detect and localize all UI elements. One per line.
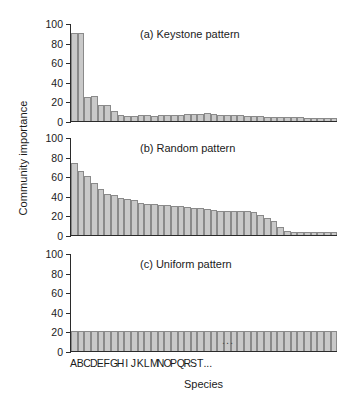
bar — [324, 331, 331, 351]
bar — [138, 203, 145, 235]
bar — [84, 97, 91, 122]
x-axis-title: Species — [70, 378, 337, 390]
bar — [211, 210, 218, 235]
bar — [171, 206, 178, 235]
bar — [84, 331, 91, 351]
bar-series-b — [71, 138, 337, 235]
bar — [104, 194, 111, 235]
y-tick-label: 80 — [51, 38, 63, 50]
x-tick-label: O — [163, 357, 170, 369]
bar — [111, 331, 118, 351]
y-tick-label: 0 — [57, 346, 63, 358]
x-tick-label: G — [110, 357, 117, 369]
bar — [178, 331, 185, 351]
bar — [257, 331, 264, 351]
bar — [98, 189, 105, 235]
y-tick-label: 20 — [51, 210, 63, 222]
bar — [331, 232, 338, 235]
bar — [231, 211, 238, 236]
bar — [264, 218, 271, 235]
bar — [304, 232, 311, 235]
bar — [284, 117, 291, 121]
bar — [284, 231, 291, 235]
y-tick-label: 100 — [45, 18, 63, 30]
y-tick-label: 0 — [57, 116, 63, 128]
bar — [78, 331, 85, 351]
plot-area-a: 100806040200 — [70, 24, 337, 122]
bar — [231, 115, 238, 121]
bar — [331, 331, 338, 351]
plot-area-c: 100806040200 — [70, 254, 337, 352]
bar-series-a — [71, 24, 337, 121]
bar — [237, 331, 244, 351]
bar — [144, 115, 151, 121]
bar — [118, 331, 125, 351]
bar — [237, 211, 244, 235]
bar — [98, 331, 105, 351]
bar — [118, 115, 125, 121]
bar-continuation-ellipsis: ... — [222, 335, 234, 346]
y-tick-label: 40 — [51, 307, 63, 319]
x-tick-label: C — [83, 357, 90, 369]
bar — [284, 331, 291, 351]
bar — [311, 118, 318, 121]
y-tick-0: 0 — [66, 352, 71, 353]
x-tick-label: A — [70, 357, 77, 369]
bar — [204, 209, 211, 235]
bar — [204, 113, 211, 121]
y-tick-0: 0 — [66, 236, 71, 237]
bar — [291, 117, 298, 121]
y-tick-label: 80 — [51, 268, 63, 280]
bar — [197, 208, 204, 235]
x-tick-label: F — [103, 357, 110, 369]
bar — [297, 331, 304, 351]
x-tick-label: I — [123, 357, 130, 369]
bar — [84, 176, 91, 235]
y-tick-label: 20 — [51, 326, 63, 338]
y-tick-0: 0 — [66, 122, 71, 123]
bar — [191, 208, 198, 235]
bar — [237, 115, 244, 121]
bar — [164, 331, 171, 351]
x-tick-label: R — [183, 357, 190, 369]
bar — [144, 204, 151, 235]
figure-species-importance-patterns: Community importance (a) Keystone patter… — [0, 0, 345, 403]
bar — [277, 227, 284, 235]
bar — [257, 116, 264, 121]
bar — [251, 331, 258, 351]
bar — [324, 118, 331, 121]
bar — [297, 232, 304, 235]
bar — [178, 206, 185, 235]
bar — [184, 207, 191, 235]
bar — [317, 232, 324, 235]
x-tick-label: B — [77, 357, 84, 369]
x-tick-label: M — [150, 357, 157, 369]
bar — [251, 212, 258, 235]
y-tick-label: 60 — [51, 171, 63, 183]
x-tick-label: L — [143, 357, 150, 369]
x-tick-label: H — [117, 357, 124, 369]
bar — [151, 116, 158, 121]
bar — [151, 204, 158, 235]
y-tick-label: 100 — [45, 248, 63, 260]
y-tick-label: 60 — [51, 287, 63, 299]
bar — [217, 211, 224, 236]
bar — [138, 115, 145, 121]
bar — [217, 115, 224, 121]
y-tick-label: 100 — [45, 132, 63, 144]
bar — [211, 331, 218, 351]
bar — [204, 331, 211, 351]
x-axis-tick-labels: ABCDEFGHIJKLMNOPQRST... — [70, 357, 337, 369]
bar — [271, 117, 278, 121]
bar — [71, 331, 78, 351]
plot-area-b: 100806040200 — [70, 138, 337, 236]
bar — [171, 115, 178, 121]
y-tick-label: 40 — [51, 191, 63, 203]
x-tick-label: P — [170, 357, 177, 369]
bar — [124, 199, 131, 235]
bar — [78, 171, 85, 235]
bar — [304, 331, 311, 351]
bar — [191, 114, 198, 121]
x-tick-label: E — [97, 357, 104, 369]
bar — [191, 331, 198, 351]
